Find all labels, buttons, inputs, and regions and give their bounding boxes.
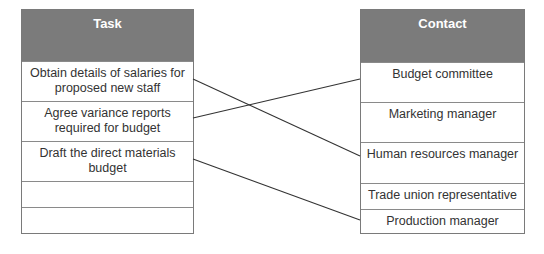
connector-variance-budget-committee — [193, 79, 360, 118]
connector-salaries-hr — [193, 79, 360, 156]
connector-materials-production — [193, 159, 360, 220]
connector-lines — [0, 0, 544, 254]
